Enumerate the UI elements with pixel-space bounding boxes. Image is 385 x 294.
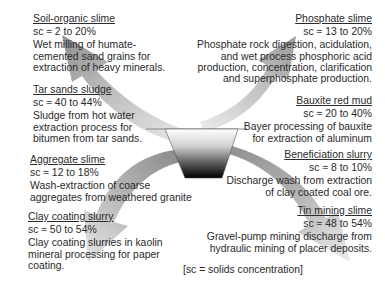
legend-note: [sc = solids concentration] xyxy=(183,264,303,275)
item-title: Tin mining slime xyxy=(207,205,372,216)
item-sc: sc ≈ 2 to 20% xyxy=(33,26,165,37)
item-desc-line: Sludge from hot water xyxy=(33,110,142,121)
item-clay-coating-slurry: Clay coating slurry sc ≈ 50 to 54% Clay … xyxy=(28,211,163,271)
item-desc-line: Bayer processing of bauxite xyxy=(244,121,372,132)
item-sc: sc ≈ 13 to 20% xyxy=(197,26,372,37)
item-desc-line: bitumen from tar sands. xyxy=(33,133,142,144)
item-tin-mining-slime: Tin mining slime sc ≈ 48 to 54% Gravel-p… xyxy=(207,205,372,254)
item-title: Bauxite red mud xyxy=(244,95,372,106)
item-desc-line: Phosphate rock digestion, acidulation, xyxy=(197,39,372,50)
item-tar-sands-sludge: Tar sands sludge sc ≈ 40 to 44% Sludge f… xyxy=(33,84,142,144)
item-title: Tar sands sludge xyxy=(33,84,142,95)
item-desc-line: and superphosphate production. xyxy=(197,73,372,84)
item-desc-line: of clay coated coal ore. xyxy=(226,187,372,198)
item-title: Clay coating slurry xyxy=(28,211,163,222)
item-aggregate-slime: Aggregate slime sc ≈ 12 to 18% Wash-extr… xyxy=(30,154,192,203)
item-sc: sc ≈ 20 to 40% xyxy=(244,108,372,119)
item-desc-line: coating. xyxy=(28,260,163,271)
item-sc: sc ≈ 48 to 54% xyxy=(207,218,372,229)
item-desc-line: extraction process for xyxy=(33,122,142,133)
item-sc: sc ≈ 40 to 44% xyxy=(33,97,142,108)
item-phosphate-slime: Phosphate slime sc ≈ 13 to 20% Phosphate… xyxy=(197,13,372,84)
item-desc-line: Discharge wash from extraction xyxy=(226,175,372,186)
item-title: Beneficiation slurry xyxy=(226,149,372,160)
item-desc-line: cemented sand grains for xyxy=(33,51,165,62)
item-desc-line: Clay coating slurries in kaolin xyxy=(28,237,163,248)
item-desc-line: Wet milling of humate- xyxy=(33,39,165,50)
item-soil-organic-slime: Soil-organic slime sc ≈ 2 to 20% Wet mil… xyxy=(33,13,165,73)
item-desc-line: aggregates from weathered granite xyxy=(30,192,192,203)
item-sc: sc ≈ 50 to 54% xyxy=(28,224,163,235)
item-title: Phosphate slime xyxy=(197,13,372,24)
item-bauxite-red-mud: Bauxite red mud sc ≈ 20 to 40% Bayer pro… xyxy=(244,95,372,144)
item-beneficiation-slurry: Beneficiation slurry sc ≈ 8 to 10% Disch… xyxy=(226,149,372,198)
item-desc-line: mineral processing for paper xyxy=(28,249,163,260)
item-sc: sc ≈ 8 to 10% xyxy=(226,162,372,173)
item-title: Aggregate slime xyxy=(30,154,192,165)
item-desc-line: production, concentration, clarification xyxy=(197,62,372,73)
item-desc-line: hydraulic mining of placer deposits. xyxy=(207,243,372,254)
item-desc-line: and wet process phosphoric acid xyxy=(197,51,372,62)
item-desc-line: for extraction of aluminum xyxy=(244,133,372,144)
item-sc: sc ≈ 12 to 18% xyxy=(30,167,192,178)
item-title: Soil-organic slime xyxy=(33,13,165,24)
item-desc-line: Gravel-pump mining discharge from xyxy=(207,231,372,242)
item-desc-line: extraction of heavy minerals. xyxy=(33,62,165,73)
item-desc-line: Wash-extraction of coarse xyxy=(30,180,192,191)
